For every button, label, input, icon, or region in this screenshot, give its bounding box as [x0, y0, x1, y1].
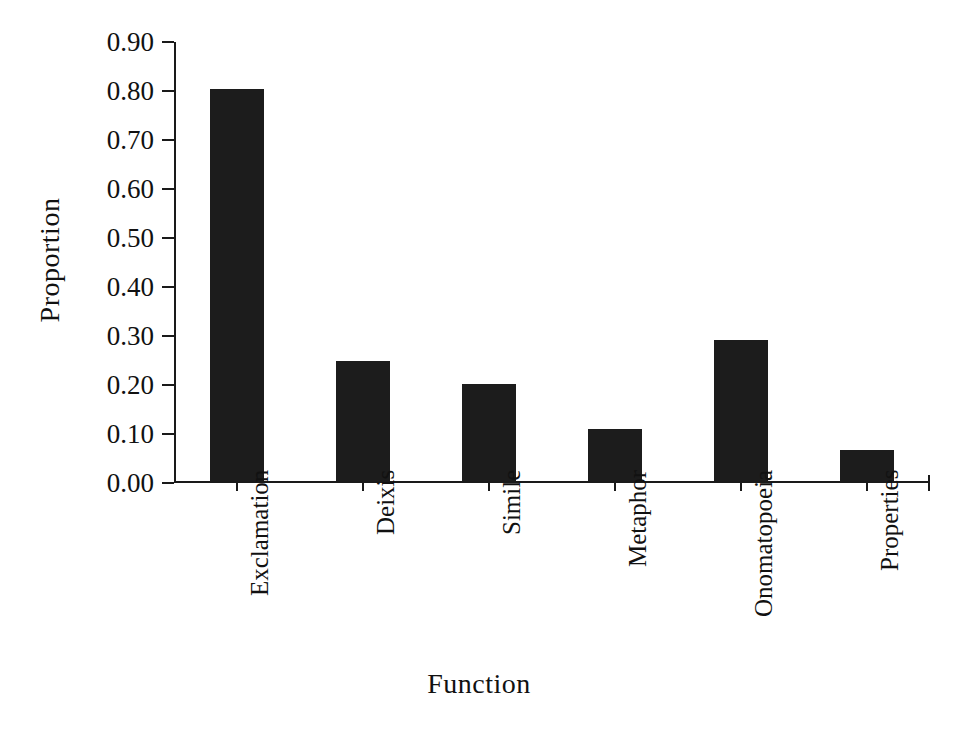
x-axis-title: Function: [0, 668, 958, 700]
bar: [714, 340, 768, 481]
y-axis-tick-label: 0.40: [107, 274, 154, 301]
y-axis-tick-label: 0.90: [107, 29, 154, 56]
y-axis-tick-label: 0.70: [107, 127, 154, 154]
y-axis-tick: 0.00: [162, 482, 174, 484]
y-axis-tick-label: 0.60: [107, 176, 154, 203]
x-axis-category-label: Exclamation: [247, 470, 272, 596]
y-axis-tick: 0.10: [162, 433, 174, 435]
y-axis-tick: 0.30: [162, 335, 174, 337]
x-axis-line: [174, 481, 930, 483]
y-axis-tick-label: 0.00: [107, 470, 154, 497]
bar: [336, 361, 390, 481]
y-axis-tick: 0.20: [162, 384, 174, 386]
y-axis-tick-label: 0.20: [107, 372, 154, 399]
x-axis-end-tick: [928, 475, 930, 491]
bar: [462, 384, 516, 481]
y-axis-tick-label: 0.50: [107, 225, 154, 252]
y-axis-tick: 0.60: [162, 188, 174, 190]
y-axis-tick: 0.40: [162, 286, 174, 288]
x-axis-category-label: Properties: [877, 470, 902, 571]
x-axis-category-label: Deixis: [373, 470, 398, 535]
bar: [210, 89, 264, 481]
plot-area: 0.000.100.200.300.400.500.600.700.800.90: [174, 42, 930, 483]
y-axis-tick: 0.70: [162, 139, 174, 141]
y-axis-tick: 0.80: [162, 90, 174, 92]
chart-figure: Proportion 0.000.100.200.300.400.500.600…: [0, 0, 958, 740]
y-axis-title: Proportion: [20, 170, 80, 350]
y-axis-tick: 0.90: [162, 41, 174, 43]
y-axis-tick-label: 0.80: [107, 78, 154, 105]
y-axis-line: [174, 42, 176, 483]
x-axis-category-label: Metaphor: [625, 470, 650, 567]
y-axis-tick-label: 0.10: [107, 421, 154, 448]
y-axis-tick: 0.50: [162, 237, 174, 239]
x-axis-category-label: Onomatopoeia: [751, 470, 776, 617]
x-axis-category-label: Simile: [499, 470, 524, 535]
y-axis-tick-label: 0.30: [107, 323, 154, 350]
